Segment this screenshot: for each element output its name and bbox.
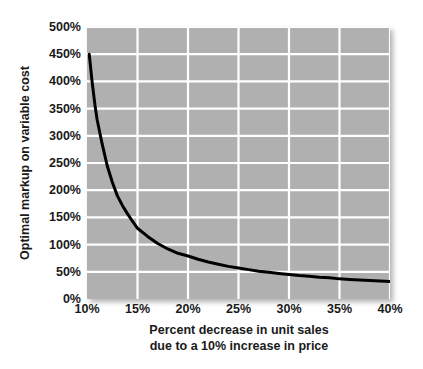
x-axis-title: Percent decrease in unit sales due to a … [87, 322, 391, 354]
x-axis-title-line1: Percent decrease in unit sales [87, 322, 391, 338]
chart-figure: Optimal markup on variable cost 0%50%100… [0, 0, 423, 369]
x-axis-tick-label: 35% [327, 302, 352, 316]
x-axis-tick-label: 25% [226, 302, 251, 316]
x-axis-tick-label: 20% [175, 302, 200, 316]
x-axis-title-line2: due to a 10% increase in price [87, 338, 391, 354]
x-axis-tick-label: 40% [377, 302, 402, 316]
x-axis-tick-label: 15% [125, 302, 150, 316]
x-axis-tick-labels: 10%15%20%25%30%35%40% [0, 0, 423, 369]
x-axis-tick-label: 10% [74, 302, 99, 316]
x-axis-tick-label: 30% [276, 302, 301, 316]
